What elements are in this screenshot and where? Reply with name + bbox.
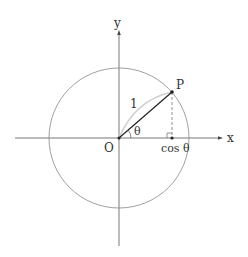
radius-label: 1 — [130, 97, 138, 111]
angle-arc — [128, 130, 131, 138]
radius-line — [119, 92, 172, 138]
point-p-label: P — [176, 78, 184, 92]
x-axis-label: x — [227, 131, 234, 145]
angle-label: θ — [134, 125, 141, 138]
projection-point — [170, 136, 173, 139]
point-p — [170, 90, 174, 94]
y-axis-arrow-icon — [117, 30, 121, 35]
origin-label: O — [104, 141, 114, 155]
origin-point — [118, 137, 121, 140]
unit-circle-diagram: y x O P 1 θ cos θ — [0, 0, 248, 257]
x-axis-arrow-icon — [218, 136, 223, 140]
y-axis-label: y — [113, 16, 121, 30]
projection-label: cos θ — [161, 142, 190, 155]
